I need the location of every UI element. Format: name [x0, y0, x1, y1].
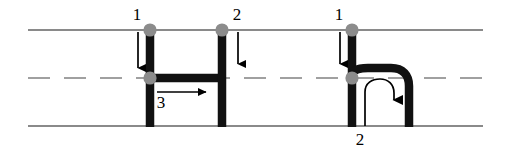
label-left-top-2: 2: [233, 5, 242, 24]
road-maneuver-diagram: 1 2 3 1 2: [0, 0, 507, 158]
node-left-jog-top-right: [215, 23, 228, 36]
node-left-jog-center: [143, 71, 156, 84]
uturn-arch-path: [352, 68, 409, 127]
diagram-canvas: 1 2 3 1 2: [0, 0, 507, 158]
node-left-jog-top: [143, 23, 156, 36]
node-uturn-top: [345, 23, 358, 36]
node-uturn-center: [345, 71, 358, 84]
label-left-top-1: 1: [133, 5, 142, 24]
label-right-bottom-2: 2: [356, 130, 365, 149]
maneuver-path-right-uturn: [345, 23, 409, 127]
label-right-top-1: 1: [335, 5, 344, 24]
label-left-mid-3: 3: [157, 93, 166, 112]
road-group: [28, 30, 483, 126]
arrow-2-right-uturn-curve: [365, 79, 394, 126]
